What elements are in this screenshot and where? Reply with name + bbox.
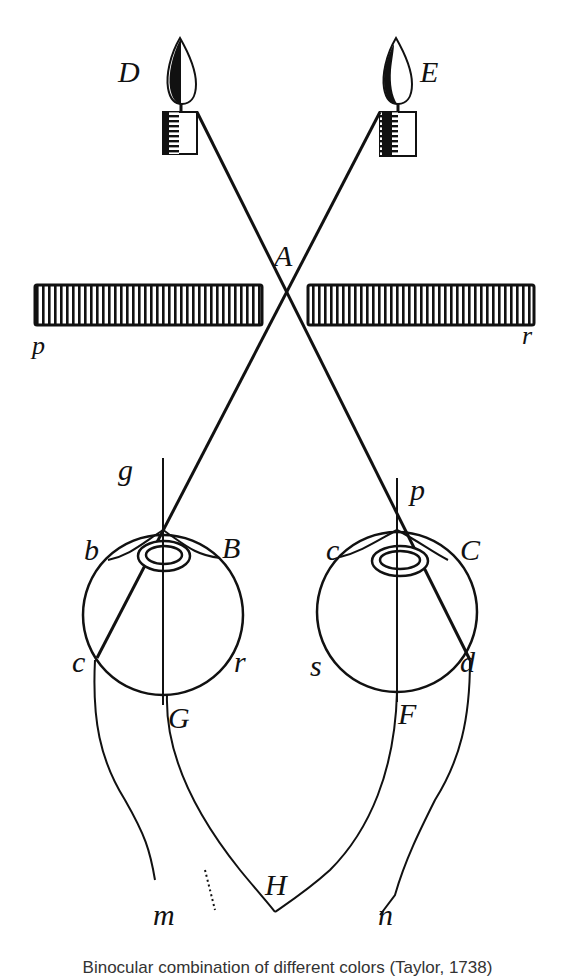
label-r: r	[234, 645, 246, 678]
label-e: E	[419, 55, 438, 88]
label-n: n	[378, 898, 393, 931]
binocular-diagram: D E p r A g b B c r G p c C s d F	[0, 0, 575, 976]
label-c-cap: C	[460, 533, 481, 566]
label-g-cap: G	[168, 701, 190, 734]
candle-e	[380, 38, 416, 156]
label-s: s	[310, 649, 322, 682]
right-eye	[317, 478, 477, 702]
label-screen-left: p	[30, 331, 45, 360]
label-c-left: c	[72, 645, 85, 678]
label-b-small: b	[84, 533, 99, 566]
label-p-right: p	[408, 473, 425, 506]
label-b: B	[222, 531, 240, 564]
candle-d	[163, 38, 197, 154]
label-f: F	[397, 697, 417, 730]
label-c-right: c	[326, 533, 339, 566]
label-m: m	[153, 898, 175, 931]
screen-left	[35, 285, 262, 325]
label-screen-right: r	[522, 321, 533, 350]
label-h: H	[264, 868, 289, 901]
figure-caption: Binocular combination of different color…	[0, 958, 575, 976]
left-eye	[83, 458, 243, 705]
label-d-small: d	[460, 645, 476, 678]
screen-right	[308, 285, 534, 325]
label-g: g	[118, 453, 133, 486]
label-d: D	[117, 55, 140, 88]
